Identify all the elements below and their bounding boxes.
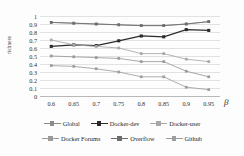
data-point xyxy=(50,55,53,58)
data-point xyxy=(95,23,98,26)
data-point xyxy=(50,45,53,48)
data-point xyxy=(140,34,143,37)
y-axis-title: richness xyxy=(6,17,12,73)
data-point xyxy=(50,64,53,67)
data-point xyxy=(207,60,210,63)
y-tick-label: 1 xyxy=(34,13,37,20)
legend-marker-icon xyxy=(91,120,108,127)
legend-marker-icon xyxy=(111,135,128,142)
data-point xyxy=(95,45,98,48)
data-point xyxy=(185,86,188,89)
chart-legend: GlobalDocker-devDocker-userDocker Forums… xyxy=(0,116,244,146)
data-point xyxy=(117,47,120,50)
data-point xyxy=(185,70,188,73)
data-point xyxy=(72,22,75,25)
legend-marker-icon xyxy=(150,120,167,127)
legend-label: Docker Forums xyxy=(61,135,100,142)
data-point xyxy=(162,35,165,38)
series-github xyxy=(50,64,210,91)
data-point xyxy=(162,75,165,78)
y-tick-label: 0.8 xyxy=(29,29,37,36)
data-point xyxy=(117,23,120,26)
legend-item-github[interactable]: Github xyxy=(166,135,203,142)
data-point xyxy=(50,39,53,42)
y-tick-label: 0.2 xyxy=(29,77,37,84)
legend-item-docker-user[interactable]: Docker-user xyxy=(150,120,200,127)
series-docker-user xyxy=(50,39,210,63)
gridline xyxy=(40,96,220,97)
data-point xyxy=(95,67,98,70)
x-tick-label: 0.95 xyxy=(203,100,214,107)
data-point xyxy=(185,58,188,61)
series-svg xyxy=(40,16,220,96)
legend-item-docker-forums[interactable]: Docker Forums xyxy=(42,135,100,142)
legend-marker-icon xyxy=(166,135,183,142)
x-tick-label: 0.6 xyxy=(47,100,55,107)
legend-marker-icon xyxy=(44,120,61,127)
data-point xyxy=(140,60,143,63)
y-tick-label: 0.5 xyxy=(29,53,37,60)
y-tick-label: 0 xyxy=(34,93,37,100)
series-layer xyxy=(40,16,220,96)
legend-marker-icon xyxy=(42,135,59,142)
legend-label: Github xyxy=(185,135,203,142)
data-point xyxy=(207,20,210,23)
data-point xyxy=(162,52,165,55)
legend-label: Global xyxy=(63,120,80,127)
legend-item-overflow[interactable]: Overflow xyxy=(111,135,154,142)
x-tick-label: 0.65 xyxy=(68,100,79,107)
x-tick-label: 0.75 xyxy=(113,100,124,107)
data-point xyxy=(50,21,53,24)
y-tick-label: 0.6 xyxy=(29,45,37,52)
data-point xyxy=(162,60,165,63)
legend-item-global[interactable]: Global xyxy=(44,120,80,127)
y-tick-label: 0.9 xyxy=(29,21,37,28)
data-point xyxy=(207,75,210,78)
y-tick-label: 0.4 xyxy=(29,61,37,68)
data-point xyxy=(117,57,120,60)
data-point xyxy=(140,52,143,55)
legend-row: GlobalDocker-devDocker-user xyxy=(0,116,244,131)
data-point xyxy=(72,43,75,46)
data-point xyxy=(207,88,210,91)
x-tick-label: 0.85 xyxy=(158,100,169,107)
x-tick-label: 0.7 xyxy=(92,100,100,107)
legend-label: Overflow xyxy=(130,135,154,142)
legend-label: Docker-dev xyxy=(110,120,140,127)
y-tick-label: 0.7 xyxy=(29,37,37,44)
series-overflow xyxy=(50,20,210,27)
x-tick-label: 0.8 xyxy=(137,100,145,107)
data-point xyxy=(140,75,143,78)
data-point xyxy=(185,23,188,26)
data-point xyxy=(140,24,143,27)
y-tick-label: 0.3 xyxy=(29,69,37,76)
data-point xyxy=(185,28,188,31)
chart-figure: richness β 00.10.20.30.40.50.60.70.80.91… xyxy=(0,0,244,156)
data-point xyxy=(72,55,75,58)
data-point xyxy=(117,39,120,42)
data-point xyxy=(72,65,75,68)
legend-item-docker-dev[interactable]: Docker-dev xyxy=(91,120,140,127)
data-point xyxy=(207,29,210,32)
x-tick-label: 0.9 xyxy=(182,100,190,107)
legend-label: Docker-user xyxy=(169,120,200,127)
x-axis-title: β xyxy=(224,97,228,107)
y-tick-label: 0.1 xyxy=(29,85,37,92)
legend-row: Docker ForumsOverflowGithub xyxy=(0,131,244,146)
data-point xyxy=(95,56,98,59)
data-point xyxy=(117,71,120,74)
data-point xyxy=(162,24,165,27)
plot-area: 00.10.20.30.40.50.60.70.80.91 0.60.650.7… xyxy=(40,16,220,96)
